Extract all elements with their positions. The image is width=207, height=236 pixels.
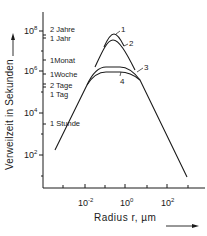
mark-2-jahre: 2 Jahre <box>50 25 75 34</box>
mark-1-monat: 1Monat <box>50 56 76 65</box>
y-axis-label: Verweilzeit in Sekunden <box>4 59 15 170</box>
curve-4 <box>87 72 140 85</box>
x-tick-labels: 10-2 100 102 <box>78 197 175 208</box>
curves <box>55 31 187 177</box>
y-tick-labels: 108 106 104 102 <box>24 25 38 160</box>
curve-labels: 1 2 3 4 <box>120 25 149 86</box>
curve-label-4: 4 <box>120 77 125 86</box>
mark-1-woche: 1Woche <box>50 70 77 79</box>
mark-1-stunde: 1 Stunde <box>50 119 80 128</box>
y-arrow-icon <box>11 33 15 56</box>
mark-1-jahr: 1 Jahr <box>50 34 71 43</box>
curve-label-1: 1 <box>121 25 126 34</box>
curve-label-3: 3 <box>144 63 149 72</box>
time-mark-labels: 2 Jahre 1 Jahr 1Monat 1Woche 2 Tage 1 Ta… <box>50 25 80 128</box>
mark-1-tag: 1 Tag <box>50 90 68 99</box>
svg-text:102: 102 <box>24 149 38 160</box>
mark-2-tage: 2 Tage <box>50 81 72 90</box>
curve-label-2: 2 <box>129 39 134 48</box>
x-arrow-icon <box>166 224 199 228</box>
svg-text:104: 104 <box>24 107 38 118</box>
residence-time-chart: 108 106 104 102 10-2 100 102 2 Jahre 1 J… <box>0 0 207 236</box>
x-axis-label: Radius r, µm <box>94 212 156 223</box>
svg-text:100: 100 <box>120 197 134 208</box>
svg-text:108: 108 <box>24 25 38 36</box>
svg-text:106: 106 <box>24 65 38 76</box>
svg-text:102: 102 <box>161 197 175 208</box>
svg-text:10-2: 10-2 <box>78 197 94 208</box>
